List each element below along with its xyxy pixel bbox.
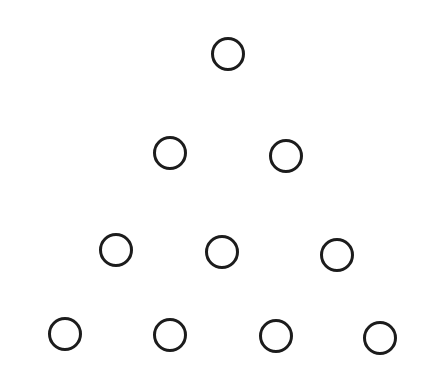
circle-icon [269,139,303,173]
circle-icon [320,238,354,272]
circle-icon [205,235,239,269]
circle-icon [99,233,133,267]
circle-icon [211,37,245,71]
circle-icon [363,321,397,355]
circle-icon [153,318,187,352]
circle-triangle-figure [0,0,428,385]
circle-icon [259,319,293,353]
circle-icon [153,136,187,170]
circle-icon [48,317,82,351]
